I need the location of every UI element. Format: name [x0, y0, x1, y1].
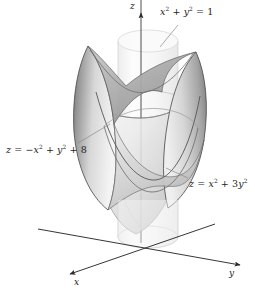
z-axis-label: z	[130, 1, 135, 11]
ell-exp2: 2	[244, 178, 248, 184]
cyl-exp1: 2	[165, 6, 169, 12]
cyl-op1: +	[172, 6, 180, 17]
cylinder-lower-overlay	[118, 200, 178, 248]
cylinder-equation-label: x2 + y2 = 1	[160, 6, 213, 17]
hyp-op2: +	[70, 144, 78, 155]
ell-op1: +	[221, 178, 229, 189]
cylinder-top-ellipse	[118, 30, 178, 52]
cyl-op2: =	[196, 6, 204, 17]
x-axis-label: x	[74, 277, 79, 287]
hyp-eq: =	[14, 144, 22, 155]
y-axis-label: y	[229, 268, 234, 278]
elliptic-paraboloid-equation-label: z = x2 + 3y2	[189, 178, 248, 189]
ell-eq: =	[197, 178, 205, 189]
hyp-lhs: z	[6, 144, 11, 155]
hyp-constant: 8	[81, 144, 87, 155]
cyl-exp2: 2	[189, 6, 193, 12]
hyp-exp1: 2	[39, 144, 43, 150]
hyp-op1: +	[46, 144, 54, 155]
ell-lhs: z	[189, 178, 194, 189]
hyp-exp2: 2	[63, 144, 67, 150]
ell-exp1: 2	[214, 178, 218, 184]
hyperbolic-paraboloid-equation-label: z = −x2 + y2 + 8	[6, 144, 87, 155]
cyl-value: 1	[207, 6, 213, 17]
